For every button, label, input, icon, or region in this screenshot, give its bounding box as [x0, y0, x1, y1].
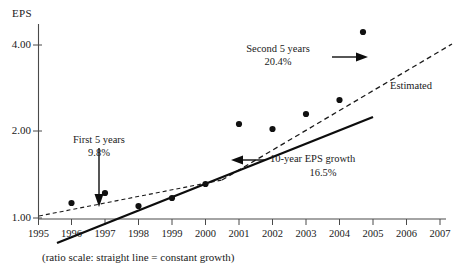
data-point	[336, 97, 342, 103]
x-tick-label-1996: 1996	[55, 228, 89, 239]
annotation-second-5-years-value: 20.4%	[226, 56, 330, 67]
annotation-estimated-label: Estimated	[390, 80, 432, 91]
x-tick-label-1998: 1998	[122, 228, 156, 239]
x-tick-label-1995: 1995	[22, 228, 56, 239]
trend-line-first-5-years	[39, 180, 222, 216]
data-point	[135, 203, 141, 209]
x-tick-label-2006: 2006	[390, 228, 424, 239]
x-tick-label-2005: 2005	[356, 228, 390, 239]
x-tick-label-2003: 2003	[289, 228, 323, 239]
data-point	[202, 181, 208, 187]
chart-caption: (ratio scale: straight line = constant g…	[42, 251, 235, 263]
annotation-second-5-years-label: Second 5 years	[226, 43, 330, 54]
x-tick-label-2002: 2002	[256, 228, 290, 239]
annotation-10-year-growth-label: 10-year EPS growth	[270, 153, 355, 164]
data-point	[269, 126, 275, 132]
x-tick-label-1997: 1997	[88, 228, 122, 239]
data-point	[236, 121, 242, 127]
x-tick-label-2004: 2004	[323, 228, 357, 239]
data-point	[169, 195, 175, 201]
annotation-first-5-years-value: 9.8%	[52, 147, 146, 158]
x-tick-marks	[39, 219, 441, 225]
annotation-first-5-years-label: First 5 years	[52, 134, 146, 145]
y-tick-label-4: 4.00	[0, 38, 31, 50]
annotation-arrow-second-5-years	[332, 53, 368, 62]
x-tick-label-1999: 1999	[155, 228, 189, 239]
x-tick-label-2007: 2007	[423, 228, 457, 239]
data-point	[360, 29, 366, 35]
eps-growth-chart: EPS 4.00 2.00 1.00 1995 1996 1997 1998 1…	[0, 0, 460, 272]
x-tick-label-2001: 2001	[222, 228, 256, 239]
y-tick-label-1: 1.00	[0, 211, 31, 223]
y-axis-title: EPS	[12, 7, 32, 19]
data-point	[68, 200, 74, 206]
annotation-10-year-growth-value: 16.5%	[270, 167, 376, 178]
y-tick-label-2: 2.00	[0, 124, 31, 136]
data-point	[303, 111, 309, 117]
x-tick-label-2000: 2000	[189, 228, 223, 239]
